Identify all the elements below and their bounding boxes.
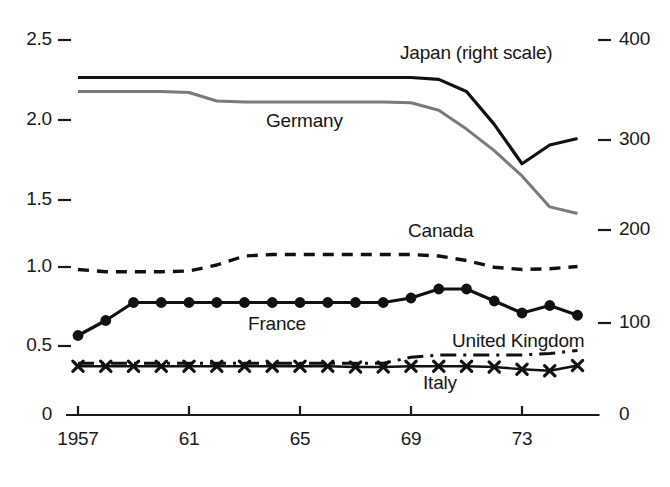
- x-axis-tick-label: 61: [149, 428, 229, 450]
- right-axis-tick-label: 100: [619, 311, 650, 333]
- series-marker-france: [211, 297, 222, 308]
- series-marker-france: [322, 297, 333, 308]
- series-marker-france: [572, 310, 583, 321]
- series-marker-france: [544, 300, 555, 311]
- series-marker-france: [267, 297, 278, 308]
- series-marker-france: [73, 330, 84, 341]
- series-marker-france: [184, 297, 195, 308]
- series-marker-france: [378, 297, 389, 308]
- series-marker-france: [295, 297, 306, 308]
- series-label-italy: Italy: [423, 372, 457, 394]
- right-axis-tick-label: 200: [619, 218, 650, 240]
- left-axis-tick-label: 2.5: [0, 28, 52, 50]
- left-axis-tick-label: 1.0: [0, 255, 52, 277]
- chart-plot-area: [0, 0, 670, 487]
- series-marker-france: [239, 297, 250, 308]
- axis-layer: [58, 40, 611, 415]
- series-marker-france: [406, 293, 417, 304]
- chart-canvas: 2.52.01.51.00.50 4003002001000 195761656…: [0, 0, 670, 487]
- x-axis-tick-label: 65: [260, 428, 340, 450]
- left-axis-tick-label: 0: [0, 403, 52, 425]
- series-line-united-kingdom: [78, 351, 578, 364]
- series-marker-france: [156, 297, 167, 308]
- series-marker-france: [128, 297, 139, 308]
- series-label-canada: Canada: [408, 220, 473, 242]
- x-axis-tick-label: 1957: [38, 428, 118, 450]
- right-axis-tick-label: 300: [619, 128, 650, 150]
- left-axis-tick-label: 0.5: [0, 334, 52, 356]
- left-axis-tick-label: 1.5: [0, 188, 52, 210]
- series-label-japan-right-scale: Japan (right scale): [400, 42, 553, 64]
- series-label-united-kingdom: United Kingdom: [452, 330, 584, 352]
- series-label-france: France: [248, 313, 306, 335]
- series-marker-france: [517, 308, 528, 319]
- left-axis-tick-label: 2.0: [0, 108, 52, 130]
- right-axis-tick-label: 0: [619, 403, 629, 425]
- series-marker-france: [461, 284, 472, 295]
- right-axis-tick-label: 400: [619, 28, 650, 50]
- series-line-canada: [78, 255, 578, 272]
- series-marker-france: [489, 296, 500, 307]
- series-marker-france: [350, 297, 361, 308]
- series-marker-france: [433, 284, 444, 295]
- series-marker-france: [100, 315, 111, 326]
- x-axis-tick-label: 73: [482, 428, 562, 450]
- x-axis-tick-label: 69: [371, 428, 451, 450]
- series-label-germany: Germany: [266, 110, 343, 132]
- series-line-france: [78, 289, 578, 336]
